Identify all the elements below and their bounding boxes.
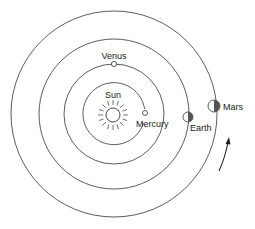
venus-label: Venus <box>101 51 127 61</box>
sun-icon <box>98 100 128 130</box>
mercury-icon <box>143 111 148 116</box>
mars-label: Mars <box>223 102 243 112</box>
earth-label: Earth <box>190 123 212 133</box>
sun-label: Sun <box>105 90 121 100</box>
mercury-label: Mercury <box>136 119 169 129</box>
mars-icon <box>208 100 220 112</box>
venus-icon <box>111 61 116 66</box>
orbit-direction-arrow-icon <box>219 137 231 171</box>
earth-icon <box>183 112 193 122</box>
solar-system-diagram: Sun Mercury Venus Earth Mars <box>0 0 255 229</box>
